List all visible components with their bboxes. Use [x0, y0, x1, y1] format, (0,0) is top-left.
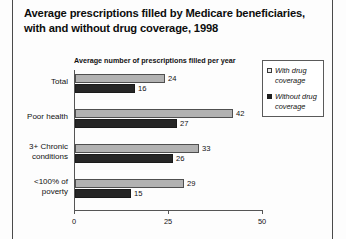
value-chronic-with: 33: [202, 144, 210, 153]
value-chronic-without: 26: [176, 154, 184, 163]
chart-legend: With drug coverage Without drug coverage: [262, 60, 324, 117]
bar-chronic-with: [75, 144, 199, 153]
legend-item-without-drug-coverage: Without drug coverage: [267, 92, 319, 111]
value-total-with: 24: [168, 74, 176, 83]
bar-total-with: [75, 74, 165, 83]
legend-label-without: Without drug coverage: [275, 92, 319, 111]
bar-group-total: Total 24 16: [74, 74, 262, 94]
value-poor-health-without: 27: [180, 119, 188, 128]
value-poor-health-with: 42: [236, 109, 244, 118]
category-label-chronic: 3+ Chronic conditions: [6, 142, 68, 161]
bar-group-poverty: <100% of poverty 29 15: [74, 179, 262, 199]
bar-poor-health-with: [75, 109, 233, 118]
bar-poverty-with: [75, 179, 184, 188]
bar-poor-health-without: [75, 119, 177, 128]
chart-plot-area: 0 25 50 Total 24 16 Poor health 42 27 3+…: [74, 70, 262, 210]
bar-group-poor-health: Poor health 42 27: [74, 109, 262, 129]
legend-label-with: With drug coverage: [275, 66, 319, 85]
bar-chronic-without: [75, 154, 173, 163]
category-label-total: Total: [6, 77, 68, 87]
category-label-poor-health: Poor health: [6, 112, 68, 122]
bar-total-without: [75, 84, 135, 93]
bar-poverty-without: [75, 189, 131, 198]
chart-subtitle: Average number of prescriptions filled p…: [74, 56, 236, 65]
x-axis-tick-25: [168, 210, 169, 214]
x-axis-tick-50: [262, 210, 263, 214]
bar-group-chronic: 3+ Chronic conditions 33 26: [74, 144, 262, 164]
figure-panel: Average prescriptions filled by Medicare…: [0, 0, 346, 239]
chart-title: Average prescriptions filled by Medicare…: [24, 6, 324, 35]
value-poverty-without: 15: [134, 189, 142, 198]
x-axis-tick-0: [74, 210, 75, 214]
legend-swatch-with-icon: [267, 68, 272, 73]
value-total-without: 16: [138, 84, 146, 93]
x-axis-label-25: 25: [164, 217, 172, 226]
x-axis-label-0: 0: [72, 217, 76, 226]
right-border-rule: [332, 0, 333, 239]
category-label-poverty: <100% of poverty: [6, 177, 68, 196]
legend-item-with-drug-coverage: With drug coverage: [267, 66, 319, 85]
x-axis-label-50: 50: [258, 217, 266, 226]
legend-swatch-without-icon: [267, 94, 272, 99]
value-poverty-with: 29: [187, 179, 195, 188]
